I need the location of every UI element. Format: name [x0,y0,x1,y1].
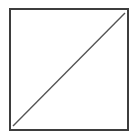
diagram-svg [0,0,138,139]
drawing-canvas [0,0,138,139]
